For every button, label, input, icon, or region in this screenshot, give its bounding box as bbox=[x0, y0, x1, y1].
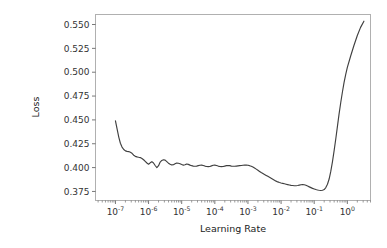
plot-frame bbox=[96, 15, 371, 201]
y-tick-label: 0.500 bbox=[64, 67, 90, 77]
plot-spines bbox=[96, 15, 371, 201]
x-tick-label: 100 bbox=[340, 205, 355, 217]
y-axis-tick-labels: 0.3750.4000.4250.4500.4750.5000.5250.550 bbox=[64, 20, 90, 197]
y-axis-ticks bbox=[92, 25, 96, 192]
y-tick-label: 0.375 bbox=[64, 187, 90, 197]
y-tick-label: 0.475 bbox=[64, 91, 90, 101]
loss-vs-learning-rate-figure: 10-710-610-510-410-310-210-1100 0.3750.4… bbox=[0, 0, 387, 248]
x-tick-label: 10-3 bbox=[239, 205, 257, 217]
x-tick-label: 10-5 bbox=[173, 205, 191, 217]
y-tick-label: 0.525 bbox=[64, 44, 90, 54]
y-axis-title: Loss bbox=[30, 97, 41, 118]
series-line-loss bbox=[115, 21, 363, 190]
y-tick-label: 0.400 bbox=[64, 163, 90, 173]
chart-canvas: 10-710-610-510-410-310-210-1100 0.3750.4… bbox=[0, 0, 387, 248]
x-tick-label: 10-7 bbox=[107, 205, 125, 217]
x-tick-label: 10-1 bbox=[305, 205, 323, 217]
data-series-group bbox=[115, 21, 363, 190]
x-axis-tick-labels: 10-710-610-510-410-310-210-1100 bbox=[107, 205, 355, 217]
y-tick-label: 0.550 bbox=[64, 20, 90, 30]
x-tick-label: 10-4 bbox=[206, 205, 224, 217]
x-tick-label: 10-6 bbox=[140, 205, 158, 217]
y-tick-label: 0.425 bbox=[64, 139, 90, 149]
y-tick-label: 0.450 bbox=[64, 115, 90, 125]
x-tick-label: 10-2 bbox=[272, 205, 290, 217]
x-axis-title: Learning Rate bbox=[200, 223, 266, 234]
x-axis-ticks bbox=[98, 201, 370, 205]
